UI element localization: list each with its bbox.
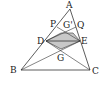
label-q: Q [77, 20, 84, 30]
segment-be [21, 41, 80, 70]
triangle-diagram: A B C D E P Q G' G [0, 0, 105, 86]
label-a: A [65, 0, 73, 10]
label-p: P [50, 19, 56, 29]
geometry-figure: A B C D E P Q G' G [0, 0, 105, 86]
label-e: E [81, 36, 88, 46]
label-b: B [10, 65, 17, 75]
label-g-prime: G' [63, 20, 73, 30]
label-g: G [57, 53, 64, 63]
label-c: C [92, 66, 99, 76]
label-d: D [37, 36, 44, 46]
